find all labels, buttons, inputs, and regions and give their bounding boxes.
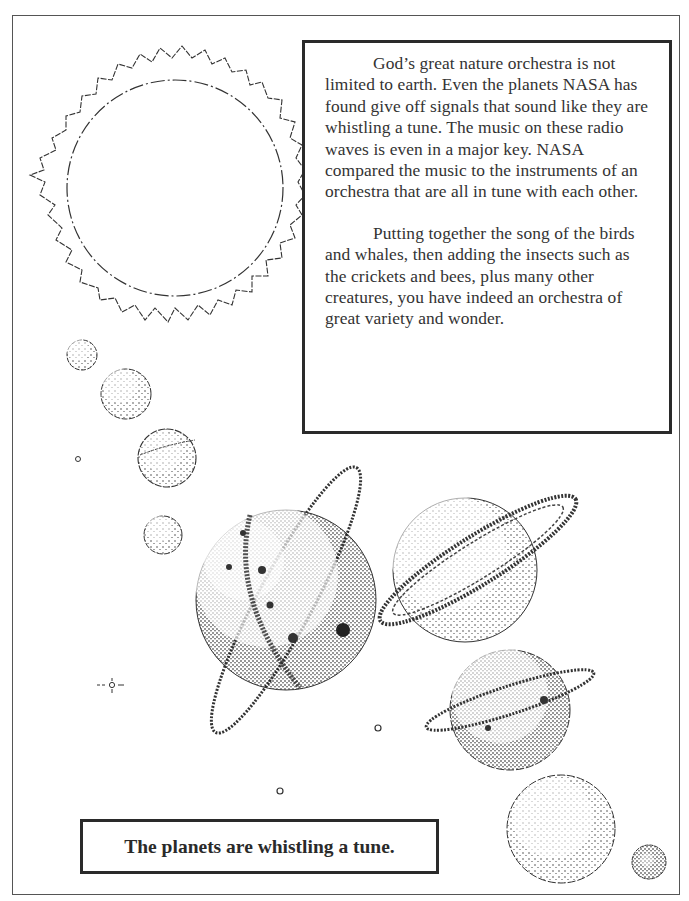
paragraph-orchestra-planets: God’s great nature orchestra is not limi… [325,53,655,203]
planet-tiny-corner-icon [632,845,666,879]
sparkle-star-icon [97,678,124,693]
star-icon [375,725,381,731]
sun-icon [30,46,305,322]
narrative-text-box: God’s great nature orchestra is not limi… [302,40,672,434]
star-icon [277,788,283,794]
small-planet-2-icon [101,369,151,419]
small-planet-3-icon [138,429,196,487]
small-planet-1-icon [67,339,97,370]
ringed-planet-large-icon [191,454,381,745]
star-icon [76,457,81,462]
caption-text: The planets are whistling a tune. [124,836,395,858]
planet-large-lower-icon [507,775,615,883]
caption-box: The planets are whistling a tune. [80,819,439,874]
paragraph-orchestra-creatures: Putting together the song of the birds a… [325,223,655,330]
ringed-planet-medium-icon [422,647,598,770]
small-planet-4-icon [144,516,182,554]
ringed-planet-saturn-icon [368,479,588,642]
